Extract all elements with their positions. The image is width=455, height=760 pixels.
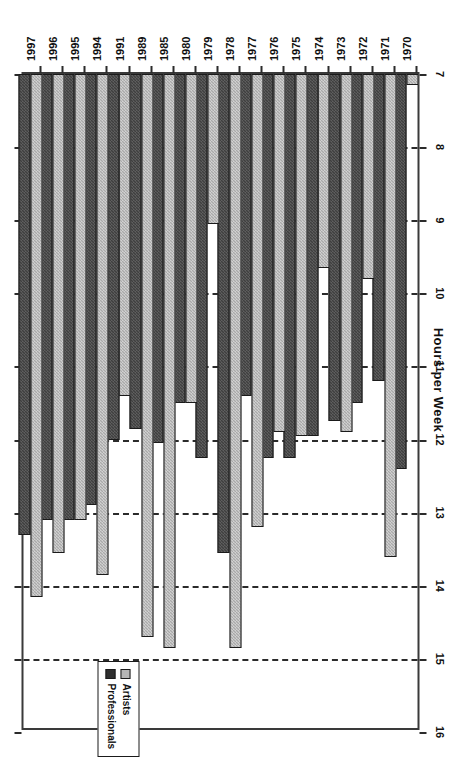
y-tick-1996 — [61, 66, 63, 73]
plot-area: 78910111213141516 1970197119721973197419… — [21, 72, 419, 730]
y-tick-label-1995: 1995 — [68, 37, 80, 61]
bar-artists-1978 — [229, 74, 241, 648]
bar-artists-1997 — [30, 74, 42, 597]
y-tick-1972 — [371, 66, 373, 73]
y-tick-1985 — [172, 66, 174, 73]
bar-artists-1976 — [273, 74, 285, 432]
bar-row: 1979 — [196, 74, 218, 728]
y-tick-1991 — [128, 66, 130, 73]
y-tick-1979 — [216, 66, 218, 73]
y-tick-label-1972: 1972 — [356, 37, 368, 61]
y-tick-label-1975: 1975 — [289, 37, 301, 61]
bar-row: 1989 — [130, 74, 152, 728]
y-tick-label-1994: 1994 — [90, 37, 102, 61]
legend-label: Artists — [118, 684, 133, 716]
y-tick-1995 — [83, 66, 85, 73]
bar-row: 1976 — [262, 74, 284, 728]
y-tick-label-1976: 1976 — [267, 37, 279, 61]
x-tick-10 — [419, 293, 426, 295]
x-tick-label-7: 7 — [433, 71, 445, 77]
bar-row: 1996 — [41, 74, 63, 728]
bar-row: 1973 — [329, 74, 351, 728]
x-tick-label-9: 9 — [433, 217, 445, 223]
x-tick-16 — [419, 732, 426, 734]
bar-artists-1979 — [207, 74, 219, 224]
x-tick-label-11: 11 — [433, 361, 445, 373]
chart-title: Hours per Week — [430, 0, 445, 760]
x-tick-15 — [419, 659, 426, 661]
bar-professionals-1997 — [18, 74, 30, 535]
legend-label: Professionals — [103, 684, 118, 750]
x-tick-13 — [419, 513, 426, 515]
y-tick-1997 — [39, 66, 41, 73]
y-tick-label-1979: 1979 — [201, 37, 213, 61]
bar-artists-1972 — [362, 74, 374, 279]
y-tick-1975 — [304, 66, 306, 73]
x-tick-label-12: 12 — [433, 433, 445, 445]
x-tick-8 — [419, 147, 426, 149]
y-tick-label-1996: 1996 — [46, 37, 58, 61]
x-tick-11 — [419, 366, 426, 368]
y-tick-1971 — [393, 66, 395, 73]
x-tick-7 — [419, 74, 426, 76]
bar-row: 1994 — [85, 74, 107, 728]
bar-artists-1991 — [119, 74, 131, 396]
legend-item-artists: Artists — [118, 669, 133, 750]
bar-artists-1994 — [96, 74, 108, 575]
bar-row: 1970 — [395, 74, 417, 728]
bar-artists-1977 — [251, 74, 263, 527]
bar-artists-1975 — [295, 74, 307, 436]
bar-artists-1970 — [406, 74, 418, 85]
bar-artists-1995 — [74, 74, 86, 520]
y-tick-1994 — [105, 66, 107, 73]
y-tick-label-1980: 1980 — [179, 37, 191, 61]
x-tick-label-8: 8 — [433, 144, 445, 150]
x-tick-9 — [419, 220, 426, 222]
y-tick-label-1985: 1985 — [157, 37, 169, 61]
bar-artists-1989 — [141, 74, 153, 637]
bar-row: 1978 — [218, 74, 240, 728]
x-tick-label-13: 13 — [433, 507, 445, 519]
y-tick-1976 — [282, 66, 284, 73]
x-tick-16 — [14, 732, 21, 734]
chart-legend: ArtistsProfessionals — [97, 661, 139, 758]
y-tick-label-1973: 1973 — [334, 37, 346, 61]
bar-row: 1997 — [19, 74, 41, 728]
y-tick-1978 — [238, 66, 240, 73]
y-tick-label-1977: 1977 — [245, 37, 257, 61]
x-tick-label-10: 10 — [433, 287, 445, 299]
bar-row: 1975 — [284, 74, 306, 728]
bar-row: 1985 — [152, 74, 174, 728]
bar-artists-1971 — [384, 74, 396, 557]
y-tick-1974 — [327, 66, 329, 73]
y-tick-1970 — [415, 66, 417, 73]
y-tick-label-1991: 1991 — [113, 37, 125, 61]
y-tick-label-1989: 1989 — [135, 37, 147, 61]
x-tick-label-14: 14 — [433, 580, 445, 592]
legend-swatch-professionals-icon — [106, 669, 116, 679]
y-tick-1980 — [194, 66, 196, 73]
bar-row: 1972 — [351, 74, 373, 728]
bar-artists-1973 — [340, 74, 352, 432]
legend-swatch-artists-icon — [121, 669, 131, 679]
legend-item-professionals: Professionals — [103, 669, 118, 750]
chart-canvas: Hours per Week 78910111213141516 1970197… — [0, 0, 455, 760]
bar-row: 1980 — [174, 74, 196, 728]
x-tick-14 — [419, 586, 426, 588]
bar-row: 1977 — [240, 74, 262, 728]
bar-artists-1980 — [185, 74, 197, 403]
bar-row: 1991 — [107, 74, 129, 728]
bar-row: 1995 — [63, 74, 85, 728]
y-tick-1977 — [260, 66, 262, 73]
bar-artists-1974 — [318, 74, 330, 268]
bar-artists-1985 — [163, 74, 175, 648]
x-tick-label-16: 16 — [433, 726, 445, 738]
bar-row: 1971 — [373, 74, 395, 728]
y-tick-label-1974: 1974 — [312, 37, 324, 61]
y-tick-label-1970: 1970 — [400, 37, 412, 61]
y-tick-1973 — [349, 66, 351, 73]
y-tick-label-1997: 1997 — [24, 37, 36, 61]
y-tick-1989 — [150, 66, 152, 73]
bar-row: 1974 — [306, 74, 328, 728]
y-tick-label-1978: 1978 — [223, 37, 235, 61]
